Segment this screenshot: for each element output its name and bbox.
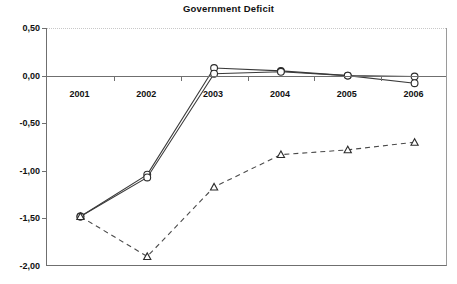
y-axis-label: 0,00: [22, 71, 40, 81]
y-axis-label: -2,00: [19, 261, 40, 271]
gridline-top: [47, 28, 446, 29]
datapoint-series-2-2002: [144, 174, 151, 181]
x-axis-label-2002: 2002: [136, 89, 156, 99]
chart-root: Government Deficit 0,500,00-0,50-1,00-1,…: [0, 0, 457, 284]
y-axis-label: 0,50: [22, 23, 40, 33]
line-series-2: [80, 72, 414, 217]
datapoint-series-3-2004: [277, 151, 284, 158]
x-axis-tick: [381, 76, 382, 81]
datapoint-series-3-2006: [411, 139, 418, 146]
y-axis-tick: [42, 28, 47, 29]
datapoint-series-2-2004: [278, 68, 285, 75]
plot-area: [46, 28, 447, 266]
line-series-3: [80, 142, 414, 256]
x-axis-label-2001: 2001: [69, 89, 89, 99]
x-axis-tick: [248, 76, 249, 81]
zero-axis-line: [47, 76, 446, 77]
line-series-1: [80, 68, 414, 217]
y-axis-tick: [42, 123, 47, 124]
chart-title: Government Deficit: [0, 3, 457, 14]
y-axis-label: -0,50: [19, 118, 40, 128]
x-axis-tick: [181, 76, 182, 81]
y-axis-label: -1,50: [19, 213, 40, 223]
datapoint-series-3-2003: [210, 183, 217, 190]
datapoint-series-2-2006: [411, 80, 418, 87]
x-axis-label-2003: 2003: [203, 89, 223, 99]
x-axis-label-2006: 2006: [404, 89, 424, 99]
y-axis-tick: [42, 218, 47, 219]
x-axis-tick: [314, 76, 315, 81]
y-axis-label: -1,00: [19, 166, 40, 176]
y-axis-tick: [42, 171, 47, 172]
series-layer: [47, 28, 448, 266]
x-axis-label-2005: 2005: [337, 89, 357, 99]
x-axis-label-2004: 2004: [270, 89, 290, 99]
y-axis-tick: [42, 76, 47, 77]
x-axis-tick: [114, 76, 115, 81]
